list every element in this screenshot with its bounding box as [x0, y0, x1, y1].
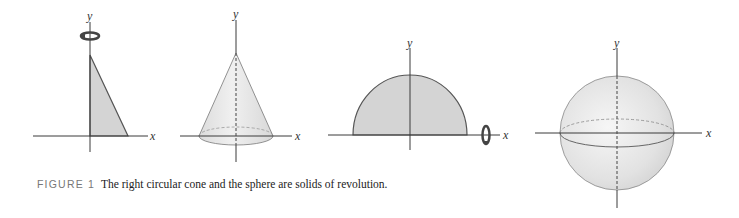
x-axis-label: x: [149, 129, 156, 143]
triangle-region: [90, 55, 128, 136]
panel-sphere: x y: [535, 36, 712, 208]
y-axis-label: y: [86, 9, 93, 23]
x-axis-label: x: [502, 128, 509, 142]
figure-caption: FIGURE 1The right circular cone and the …: [37, 178, 387, 190]
y-axis-label: y: [406, 36, 413, 50]
y-axis-label: y: [232, 7, 239, 21]
y-axis-label: y: [613, 36, 620, 50]
x-axis-label: x: [705, 126, 712, 140]
panel-semicircle: x y: [328, 36, 509, 150]
panel-triangle: x y: [33, 9, 156, 152]
caption-text: The right circular cone and the sphere a…: [101, 178, 387, 190]
x-axis-label: x: [294, 129, 301, 143]
panel-cone: x y: [180, 7, 301, 162]
figure-label: FIGURE 1: [37, 178, 95, 190]
